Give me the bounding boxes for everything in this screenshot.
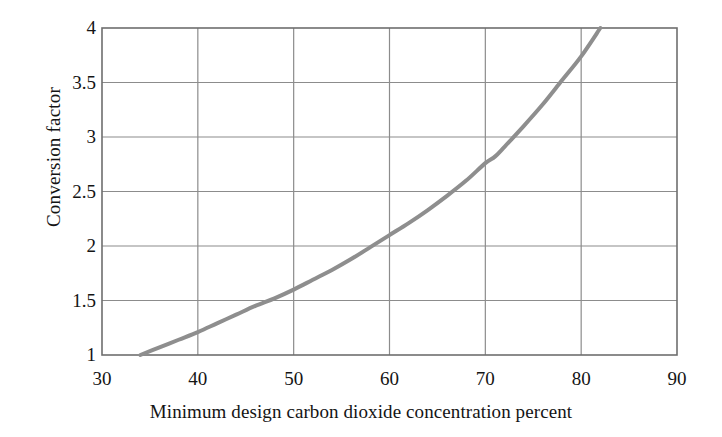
- x-axis-tick-labels: 30405060708090: [0, 0, 722, 437]
- x-tick-label-2: 50: [264, 369, 324, 388]
- x-tick-label-0: 30: [72, 369, 132, 388]
- x-axis-title: Minimum design carbon dioxide concentrat…: [0, 401, 722, 423]
- chart-figure: Conversion factor 11.522.533.54 30405060…: [0, 0, 722, 437]
- x-tick-label-3: 60: [360, 369, 420, 388]
- x-tick-label-4: 70: [455, 369, 515, 388]
- x-tick-label-6: 90: [647, 369, 707, 388]
- x-tick-label-5: 80: [551, 369, 611, 388]
- x-tick-label-1: 40: [168, 369, 228, 388]
